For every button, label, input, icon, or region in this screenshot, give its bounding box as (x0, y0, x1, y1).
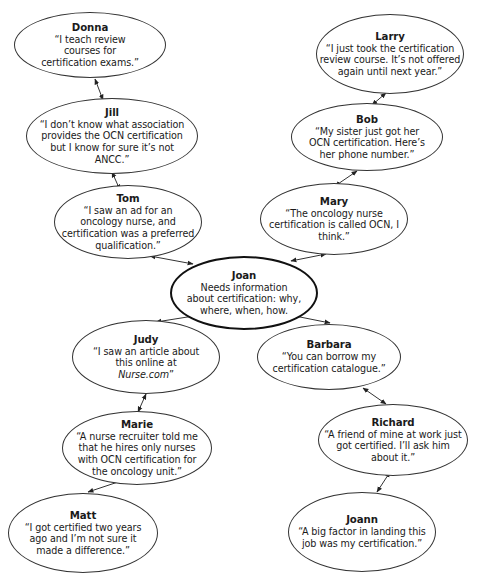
edge-tom-joan (150, 256, 193, 264)
quote-close: ” (169, 369, 174, 380)
node-name: Matt (70, 510, 96, 522)
node-joan-center: Joan Needs information about certificati… (170, 256, 318, 330)
node-name: Joan (232, 270, 257, 282)
node-name: Joann (346, 514, 378, 526)
node-richard: Richard “A friend of mine at work just g… (318, 404, 468, 476)
node-description: Needs information about certification: w… (182, 282, 306, 317)
node-tom: Tom “I saw an ad for an oncology nurse, … (54, 185, 202, 259)
quote-website: Nurse.com (118, 369, 169, 380)
node-judy: Judy “I saw an article about this online… (72, 320, 220, 394)
edge-donna-jill (95, 79, 103, 100)
node-quote: “I don’t know what association provides … (33, 119, 191, 165)
node-quote: “I teach review courses for certificatio… (31, 34, 149, 69)
node-quote: “The oncology nurse certification is cal… (265, 208, 403, 243)
node-quote: “A nurse recruiter told me that he hires… (66, 431, 208, 477)
node-name: Tom (117, 193, 140, 205)
node-name: Marie (121, 419, 153, 431)
node-matt: Matt “I got certified two years ago and … (8, 493, 158, 573)
node-name: Mary (320, 196, 348, 208)
node-bob: Bob “My sister just got her OCN certific… (291, 103, 443, 171)
node-larry: Larry “I just took the certification rev… (316, 14, 464, 94)
node-name: Bob (356, 114, 378, 126)
node-quote: “A friend of mine at work just got certi… (320, 429, 466, 464)
node-quote: “I saw an article about this online at N… (87, 346, 205, 381)
node-name: Richard (371, 417, 414, 429)
edge-mary-joan (291, 254, 326, 261)
node-donna: Donna “I teach review courses for certif… (14, 12, 166, 78)
node-quote: “You can borrow my certification catalog… (265, 351, 393, 374)
node-name: Judy (134, 334, 159, 346)
node-mary: Mary “The oncology nurse certification i… (260, 183, 408, 255)
node-name: Jill (105, 107, 119, 119)
node-name: Donna (72, 22, 108, 34)
node-quote: “A big factor in landing this job was my… (292, 526, 432, 549)
node-quote: “My sister just got her OCN certificatio… (300, 126, 434, 161)
node-quote: “I got certified two years ago and I’m n… (15, 522, 151, 557)
edge-judy-marie (138, 394, 146, 412)
node-quote: “I saw an ad for an oncology nurse, and … (57, 205, 199, 251)
node-joann: Joann “A big factor in landing this job … (288, 492, 436, 572)
node-barbara: Barbara “You can borrow my certification… (257, 324, 401, 390)
node-marie: Marie “A nurse recruiter told me that he… (62, 411, 212, 485)
node-jill: Jill “I don’t know what association prov… (26, 98, 198, 174)
node-name: Barbara (306, 339, 351, 351)
quote-text: “I saw an article about this online at (93, 346, 199, 369)
node-name: Larry (375, 31, 405, 43)
node-quote: “I just took the certification review co… (315, 43, 465, 78)
edge-barbara-richard (363, 388, 386, 404)
